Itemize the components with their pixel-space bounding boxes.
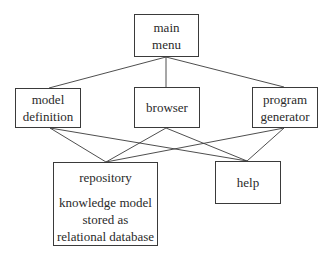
- node-label-line: program: [263, 91, 307, 108]
- node-label-line: definition: [23, 108, 74, 125]
- edge-browser-to-repository: [106, 128, 166, 162]
- node-label-line: main: [154, 19, 180, 36]
- node-browser: browser: [134, 87, 200, 128]
- node-title: repository: [79, 169, 132, 186]
- node-help: help: [215, 161, 281, 204]
- node-description-line: relational database: [57, 228, 154, 245]
- edge-program-generator-to-repository: [106, 128, 284, 162]
- node-label-line: menu: [152, 36, 181, 53]
- node-main-menu: main menu: [134, 14, 199, 57]
- node-program-generator: program generator: [252, 87, 318, 128]
- node-model-definition: model definition: [15, 88, 81, 128]
- node-description-line: knowledge model: [59, 194, 152, 211]
- edge-program-generator-to-help: [247, 128, 284, 161]
- edge-model-definition-to-help: [50, 128, 247, 161]
- node-label-line: browser: [146, 99, 188, 116]
- node-label-line: generator: [260, 108, 309, 125]
- node-description-line: stored as: [83, 211, 129, 228]
- edge-browser-to-help: [166, 128, 247, 161]
- architecture-diagram: main menu model definition browser progr…: [0, 0, 331, 256]
- edge-main-menu-to-model-definition: [49, 57, 166, 88]
- node-label-line: model: [32, 91, 65, 108]
- node-label-line: help: [237, 174, 259, 191]
- node-repository: repository knowledge model stored as rel…: [53, 162, 158, 246]
- edge-main-menu-to-program-generator: [166, 57, 284, 87]
